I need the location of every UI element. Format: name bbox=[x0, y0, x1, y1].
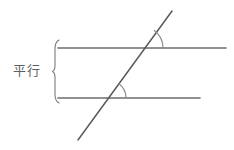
geometry-figure: 平行 bbox=[0, 0, 234, 150]
parallel-brace bbox=[53, 40, 60, 103]
lower-angle-arc bbox=[119, 83, 126, 98]
parallel-label: 平行 bbox=[13, 64, 41, 77]
transversal-line bbox=[78, 11, 172, 140]
